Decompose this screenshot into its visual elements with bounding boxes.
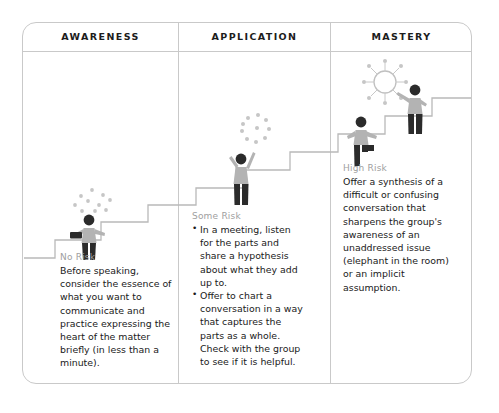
column-header-awareness: AWARENESS [23, 28, 178, 46]
risk-block-some-risk: Some Risk In a meeting, listen for the p… [192, 211, 304, 368]
capability-progression-diagram: AWARENESS APPLICATION MASTERY [0, 0, 499, 413]
risk-body-some-risk: In a meeting, listen for the parts and s… [192, 223, 304, 368]
column-divider-awareness-application [178, 23, 179, 383]
risk-label-high-risk: High Risk [343, 163, 456, 173]
list-item: Offer to chart a conversation in a way t… [192, 289, 304, 368]
header-divider-rule [22, 51, 472, 52]
risk-body-no-risk: Before speaking, consider the essence of… [60, 264, 178, 370]
risk-body-high-risk: Offer a synthesis of a difficult or conf… [343, 175, 456, 294]
risk-block-no-risk: No Risk Before speaking, consider the es… [60, 252, 178, 370]
some-risk-bullet-list: In a meeting, listen for the parts and s… [192, 223, 304, 368]
column-header-application: APPLICATION [179, 28, 330, 46]
column-divider-application-mastery [330, 23, 331, 383]
list-item: In a meeting, listen for the parts and s… [192, 223, 304, 289]
risk-block-high-risk: High Risk Offer a synthesis of a difficu… [343, 163, 456, 294]
column-header-mastery: MASTERY [331, 28, 472, 46]
risk-label-some-risk: Some Risk [192, 211, 304, 221]
risk-label-no-risk: No Risk [60, 252, 178, 262]
